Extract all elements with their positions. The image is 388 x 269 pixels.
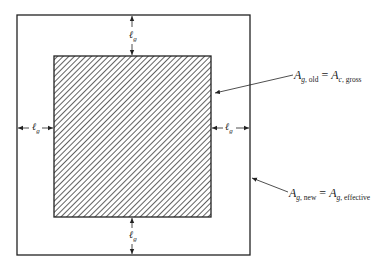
svg-text:ℓg: ℓg — [32, 121, 40, 135]
label-area-old-gross: Ag, old = Ac, gross — [293, 68, 362, 84]
inner-gross-area-box — [54, 56, 211, 217]
area-diagram: ℓg ℓg ℓg ℓg Ag, old = Ac, gross Ag, new … — [0, 0, 388, 269]
svg-text:ℓg: ℓg — [129, 29, 137, 43]
dimension-top: ℓg — [129, 16, 137, 55]
leader-arrow-gross — [215, 75, 293, 93]
dimension-right: ℓg — [212, 121, 249, 135]
dimension-left: ℓg — [18, 121, 53, 135]
label-area-new-effective: Ag, new = Ag, effective — [288, 186, 371, 202]
svg-text:ℓg: ℓg — [225, 121, 233, 135]
svg-text:ℓg: ℓg — [129, 229, 137, 243]
dimension-bottom: ℓg — [129, 218, 137, 254]
leader-arrow-effective — [252, 178, 288, 192]
